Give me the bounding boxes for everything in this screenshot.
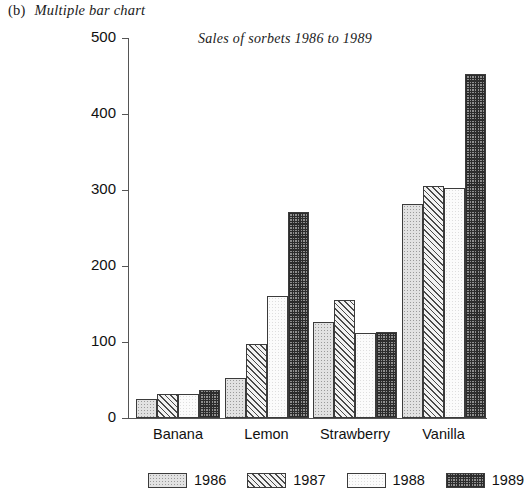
bar-group — [225, 38, 309, 418]
legend-label: 1988 — [393, 472, 425, 488]
bar[interactable] — [334, 300, 355, 418]
y-axis-tick-label: 100 — [76, 332, 116, 349]
y-axis-tick-label: 0 — [76, 408, 116, 425]
legend-item[interactable]: 1987 — [247, 472, 325, 488]
legend-swatch — [148, 473, 187, 488]
legend-item[interactable]: 1989 — [446, 472, 524, 488]
legend-item[interactable]: 1986 — [148, 472, 226, 488]
bar-group — [313, 38, 397, 418]
bar[interactable] — [376, 332, 397, 418]
bar[interactable] — [313, 322, 334, 418]
legend-label: 1987 — [293, 472, 325, 488]
bar[interactable] — [136, 399, 157, 418]
plot-region — [128, 38, 487, 418]
legend-item[interactable]: 1988 — [347, 472, 425, 488]
bar[interactable] — [199, 390, 220, 418]
y-axis-tick-label: 300 — [76, 180, 116, 197]
bar[interactable] — [402, 204, 423, 418]
x-axis-category-label: Vanilla — [382, 426, 506, 442]
bar-group — [402, 38, 486, 418]
y-axis-tick-labels: 0100200300400500 — [72, 0, 116, 502]
bar[interactable] — [267, 296, 288, 418]
chart-legend: 1986198719881989 — [148, 472, 524, 488]
legend-swatch — [446, 473, 485, 488]
bar[interactable] — [246, 344, 267, 418]
y-axis-tick — [122, 418, 129, 419]
legend-label: 1989 — [492, 472, 524, 488]
legend-swatch — [247, 473, 286, 488]
bar-group — [136, 38, 220, 418]
bar[interactable] — [178, 394, 199, 418]
bar[interactable] — [355, 333, 376, 418]
y-axis-tick-label: 500 — [76, 28, 116, 45]
y-axis-tick-label: 400 — [76, 104, 116, 121]
bar[interactable] — [288, 212, 309, 418]
y-axis-tick-label: 200 — [76, 256, 116, 273]
x-axis-line — [128, 418, 487, 419]
bar[interactable] — [465, 74, 486, 418]
bar[interactable] — [157, 394, 178, 418]
bar[interactable] — [225, 378, 246, 418]
legend-label: 1986 — [194, 472, 226, 488]
bar[interactable] — [423, 186, 444, 418]
legend-swatch — [347, 473, 386, 488]
bar[interactable] — [444, 188, 465, 418]
